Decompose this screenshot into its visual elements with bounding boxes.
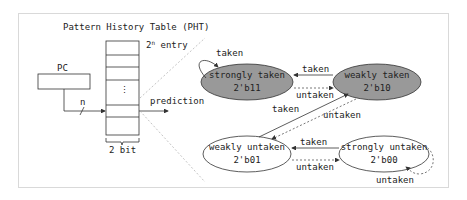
pht-entry-label: 2n entry <box>146 39 188 50</box>
svg-text:weakly untaken: weakly untaken <box>209 142 285 152</box>
svg-text:weakly taken: weakly taken <box>344 70 409 80</box>
svg-text:2'b00: 2'b00 <box>370 155 397 165</box>
bus-width-label: n <box>80 97 85 107</box>
state-strongly-taken: strongly taken 2'b11 <box>201 64 293 100</box>
label-wt-to-st: taken <box>302 64 329 74</box>
prediction-label: prediction <box>150 96 204 106</box>
bit-width-label: 2 bit <box>109 145 136 155</box>
bit-width-brace <box>106 138 139 145</box>
pc-label: PC <box>57 63 68 73</box>
label-wt-to-wu: untaken <box>323 110 361 120</box>
state-weakly-untaken: weakly untaken 2'b01 <box>203 136 291 172</box>
label-st-to-wt: untaken <box>296 90 334 100</box>
zoom-guide-bottom <box>140 111 205 182</box>
label-wu-to-su: untaken <box>296 162 334 172</box>
label-su-to-wu: taken <box>300 137 327 147</box>
pc-register <box>38 74 90 89</box>
svg-text:strongly taken: strongly taken <box>209 70 285 80</box>
state-strongly-untaken: strongly untaken 2'b00 <box>339 136 429 172</box>
pht-title: Pattern History Table (PHT) <box>63 22 209 32</box>
svg-text:2'b11: 2'b11 <box>233 83 260 93</box>
svg-text:2'b10: 2'b10 <box>363 83 390 93</box>
label-su-self: untaken <box>376 175 414 185</box>
pht-dots: ⋮ <box>120 85 129 95</box>
label-st-self: taken <box>216 48 243 58</box>
branch-predictor-diagram: Pattern History Table (PHT) ⋮ 2n entry 2… <box>0 0 467 200</box>
svg-text:strongly untaken: strongly untaken <box>341 142 428 152</box>
label-wu-to-wt: taken <box>272 104 299 114</box>
svg-text:2'b01: 2'b01 <box>233 155 260 165</box>
